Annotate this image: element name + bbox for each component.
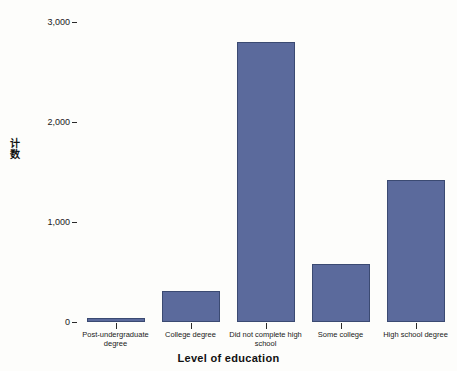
y-axis-tick-label: 0 [22,316,70,328]
y-axis-title-char-1: 计 [4,138,26,149]
y-axis-tick-mark [72,322,77,323]
bar [387,180,445,322]
y-axis-tick-label: 1,000 [22,216,70,228]
x-axis-category-label: Did not complete high school [228,330,303,348]
x-axis-category-label: Some college [303,330,378,339]
y-axis-title-char-2: 数 [4,149,26,160]
x-axis-category-label: College degree [153,330,228,339]
x-axis-category-label: High school degree [378,330,453,339]
x-axis-title: Level of education [0,352,457,364]
y-axis-tick-mark [72,22,77,23]
y-axis-tick-mark [72,222,77,223]
bar-chart: 计 数 01,0002,0003,000 Post-undergraduate … [0,0,457,371]
x-axis-tick-mark [266,323,267,329]
x-axis-category-label: Post-undergraduate degree [78,330,153,348]
x-axis-tick-mark [341,323,342,329]
bar [237,42,295,322]
y-axis-tick-label: 2,000 [22,116,70,128]
bar [87,318,145,322]
y-axis-tick-label: 3,000 [22,16,70,28]
plot-area [78,22,453,322]
x-axis-tick-mark [416,323,417,329]
y-axis-title: 计 数 [4,138,26,160]
y-axis-tick-mark [72,122,77,123]
x-axis-tick-mark [116,323,117,329]
x-axis-tick-mark [191,323,192,329]
bar [312,264,370,322]
bar [162,291,220,322]
